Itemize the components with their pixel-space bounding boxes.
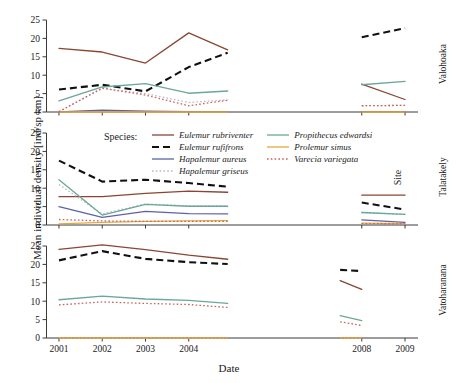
y-tick-label: 10 xyxy=(31,297,41,307)
y-tick-label: 20 xyxy=(31,260,41,270)
y-tick-label: 15 xyxy=(31,278,41,288)
series-line-propithecus-edwardsi xyxy=(340,316,362,321)
series-line-varecia-variegata xyxy=(340,322,362,326)
y-tick-label: 25 xyxy=(31,241,41,251)
series-line-propithecus-edwardsi xyxy=(362,81,405,84)
legend-label: Eulemur rufifrons xyxy=(179,142,243,152)
series-line-eulemur-rufifrons xyxy=(59,251,228,264)
y-tick-label: 0 xyxy=(35,220,40,230)
series-line-eulemur-rufifrons xyxy=(340,270,362,271)
facet-strip-label: Valohoaka xyxy=(438,19,448,109)
legend-label: Hapalemur aureus xyxy=(179,154,246,164)
facet-panel-valohoaka: 0510152025 xyxy=(46,20,418,112)
series-line-hapalemur-aureus xyxy=(59,207,228,218)
plot-area: 0510152025 xyxy=(46,20,420,114)
legend-item[interactable]: Eulemur rufifrons xyxy=(152,141,253,152)
legend: Species: Eulemur rubriventerPropithecus … xyxy=(152,129,372,176)
y-tick-label: 20 xyxy=(31,34,41,44)
legend-label: Propithecus edwardsi xyxy=(294,130,372,140)
y-tick-label: 10 xyxy=(31,184,41,194)
legend-swatch xyxy=(152,155,174,163)
series-line-propithecus-edwardsi xyxy=(59,296,228,303)
series-line-varecia-variegata xyxy=(59,302,228,308)
plot-area: 0510152025 xyxy=(46,246,420,340)
y-tick-label: 5 xyxy=(35,202,40,212)
legend-label: Prolemur simus xyxy=(294,142,351,152)
y-tick-label: 10 xyxy=(31,71,41,81)
legend-swatch xyxy=(267,143,289,151)
series-line-eulemur-rubriventer xyxy=(362,84,405,99)
y-tick-label: 15 xyxy=(31,52,41,62)
legend-label: Varecia variegata xyxy=(294,154,358,164)
legend-item[interactable]: Hapalemur aureus xyxy=(152,153,253,164)
legend-item[interactable]: Varecia variegata xyxy=(267,153,372,164)
series-line-eulemur-rufifrons xyxy=(362,28,405,37)
legend-label: Eulemur rubriventer xyxy=(179,130,253,140)
legend-swatch xyxy=(267,155,289,163)
legend-title: Species: xyxy=(104,131,137,142)
series-line-eulemur-rubriventer xyxy=(59,245,228,259)
series-line-eulemur-rubriventer xyxy=(59,33,228,63)
legend-swatch xyxy=(152,131,174,139)
axis-lines xyxy=(47,20,419,112)
y-tick-label: 20 xyxy=(31,147,41,157)
facet-panel-vatoharanana: 0510152025 xyxy=(46,246,418,338)
series-line-eulemur-rubriventer xyxy=(59,191,228,197)
legend-item[interactable]: Eulemur rubriventer xyxy=(152,129,253,140)
facet-strip-title: Site xyxy=(392,118,403,238)
y-tick-label: 15 xyxy=(31,165,41,175)
x-tick-label: 2002 xyxy=(82,344,122,354)
legend-swatch xyxy=(152,143,174,151)
series-line-hapalemur-griseus xyxy=(59,185,228,214)
legend-label: Hapalemur griseus xyxy=(179,166,248,176)
series-line-varecia-variegata xyxy=(59,88,228,112)
y-tick-label: 0 xyxy=(35,333,40,343)
legend-item[interactable]: Hapalemur griseus xyxy=(152,165,253,176)
facet-strip-label: Talatakely xyxy=(438,132,448,222)
y-tick-label: 5 xyxy=(35,315,40,325)
x-axis-label: Date xyxy=(0,362,458,374)
x-tick-label: 2003 xyxy=(125,344,165,354)
x-tick-label: 2009 xyxy=(385,344,425,354)
legend-item[interactable]: Prolemur simus xyxy=(267,141,372,152)
y-tick-label: 0 xyxy=(35,107,40,117)
chart-figure: Mean individual density [ind/sp km] 0510… xyxy=(0,0,458,383)
series-line-eulemur-rubriventer xyxy=(340,281,362,290)
series-line-eulemur-rufifrons xyxy=(59,53,228,92)
legend-swatch xyxy=(267,131,289,139)
x-tick-label: 2001 xyxy=(39,344,79,354)
facet-strip-label: Vatoharanana xyxy=(438,245,448,335)
y-tick-label: 5 xyxy=(35,89,40,99)
y-tick-label: 25 xyxy=(31,15,41,25)
axis-lines xyxy=(47,246,419,338)
x-tick-label: 2008 xyxy=(342,344,382,354)
legend-swatch xyxy=(152,167,174,175)
x-tick-label: 2004 xyxy=(169,344,209,354)
y-tick-label: 25 xyxy=(31,128,41,138)
legend-item[interactable]: Propithecus edwardsi xyxy=(267,129,372,140)
